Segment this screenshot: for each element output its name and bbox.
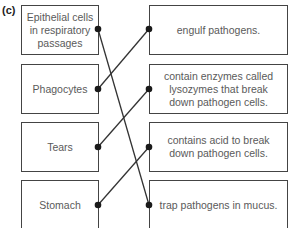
line-tears-lysozymes — [98, 89, 149, 147]
left-box-text: Phagocytes — [33, 83, 88, 96]
left-box-epithelial: Epithelial cells in respiratory passages — [21, 5, 99, 55]
left-box-text: Stomach — [39, 199, 80, 212]
left-box-text: Epithelial cells in respiratory passages — [22, 11, 98, 50]
right-box-lysozymes: contain enzymes called lysozymes that br… — [149, 64, 288, 114]
left-box-text: Tears — [47, 141, 73, 154]
question-label: (c) — [2, 4, 15, 16]
right-box-text: contain enzymes called lysozymes that br… — [158, 70, 279, 109]
right-box-text: engulf pathogens. — [177, 24, 261, 37]
right-box-engulf: engulf pathogens. — [149, 5, 288, 55]
right-box-acid: contains acid to break down pathogen cel… — [149, 122, 288, 172]
right-box-text: trap pathogens in mucus. — [160, 199, 278, 212]
line-epithelial-mucus — [98, 29, 149, 205]
right-box-mucus: trap pathogens in mucus. — [149, 180, 288, 228]
left-box-stomach: Stomach — [21, 180, 99, 228]
line-stomach-acid — [98, 147, 149, 205]
left-box-phagocytes: Phagocytes — [21, 64, 99, 114]
left-box-tears: Tears — [21, 122, 99, 172]
right-box-text: contains acid to break down pathogen cel… — [164, 134, 273, 160]
line-phagocytes-engulf — [98, 29, 149, 89]
